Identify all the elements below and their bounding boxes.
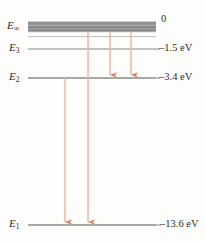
energy-value-e1: –13.6 eV (160, 218, 199, 229)
level-label-e3-base: E (9, 41, 16, 53)
level-label-einfinity: E∞ (7, 19, 19, 31)
level-label-e3-sub: 3 (16, 46, 20, 55)
energy-level-diagram (0, 0, 206, 244)
level-label-e2: E2 (9, 70, 19, 82)
level-label-einfinity-sub: ∞ (14, 24, 20, 33)
energy-value-e2: –3.4 eV (159, 71, 192, 82)
transition-arrows (65, 32, 131, 222)
energy-value-e3: –1.5 eV (159, 42, 192, 53)
level-label-einfinity-base: E (7, 19, 14, 31)
figure-caption (0, 230, 206, 244)
level-label-e2-sub: 2 (16, 75, 20, 84)
level-label-e2-base: E (9, 70, 16, 82)
level-label-e3: E3 (9, 41, 19, 53)
energy-value-einfinity: 0 (161, 13, 166, 24)
level-label-e1-base: E (9, 217, 16, 229)
level-label-e1: E1 (9, 217, 19, 229)
continuum-band-einfinity (28, 22, 156, 37)
